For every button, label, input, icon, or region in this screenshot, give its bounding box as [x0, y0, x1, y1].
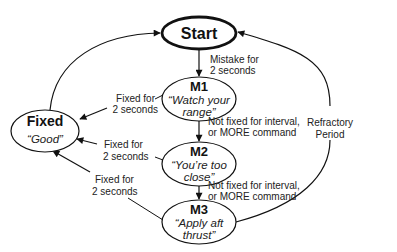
- label-m2-m3: Not fixed for interval, or MORE command: [208, 180, 300, 202]
- state-diagram: Start M1 “Watch your range” M2 “You’re t…: [0, 0, 397, 252]
- label-m2-fixed: Fixed for 2 seconds: [103, 139, 149, 162]
- node-start-title: Start: [181, 25, 218, 42]
- label-m3-start-line2: Period: [316, 129, 345, 140]
- node-m1: M1 “Watch your range”: [162, 77, 236, 121]
- node-m3-line1: “Apply aft: [175, 217, 224, 229]
- node-start: Start: [162, 17, 236, 49]
- label-m3-fixed-line1: Fixed for: [95, 174, 135, 185]
- label-start-m1-line1: Mistake for: [210, 54, 260, 65]
- label-m2-m3-line1: Not fixed for interval,: [208, 180, 300, 191]
- label-m1-fixed: Fixed for 2 seconds: [112, 93, 158, 115]
- node-fixed: Fixed “Good”: [11, 110, 79, 152]
- node-m2-line1: “You’re too: [171, 159, 227, 171]
- label-m1-m2-line2: or MORE command: [208, 127, 296, 138]
- label-m1-fixed-line1: Fixed for: [116, 93, 156, 104]
- node-fixed-line1: “Good”: [27, 133, 64, 145]
- label-start-m1: Mistake for 2 seconds: [210, 54, 260, 76]
- node-m3-line2: thrust”: [183, 229, 217, 241]
- label-m2-fixed-line1: Fixed for: [104, 139, 144, 150]
- node-m1-line1: “Watch your: [168, 94, 231, 106]
- node-m2-title: M2: [190, 144, 208, 159]
- label-m2-m3-line2: or MORE command: [208, 191, 296, 202]
- label-m3-fixed-line2: 2 seconds: [92, 186, 138, 197]
- label-m1-m2: Not fixed for interval, or MORE command: [208, 116, 300, 138]
- label-m2-fixed-line2: 2 seconds: [103, 151, 149, 162]
- node-m1-title: M1: [190, 79, 208, 94]
- node-m3: M3 “Apply aft thrust”: [162, 200, 236, 244]
- node-fixed-title: Fixed: [27, 113, 64, 129]
- label-m3-fixed: Fixed for 2 seconds: [92, 174, 138, 197]
- node-m3-title: M3: [190, 202, 208, 217]
- label-m1-m2-line1: Not fixed for interval,: [208, 116, 300, 127]
- label-m1-fixed-line2: 2 seconds: [112, 104, 158, 115]
- label-start-m1-line2: 2 seconds: [210, 65, 256, 76]
- label-m3-start-line1: Refractory: [307, 117, 353, 128]
- label-m3-start: Refractory Period: [307, 117, 353, 140]
